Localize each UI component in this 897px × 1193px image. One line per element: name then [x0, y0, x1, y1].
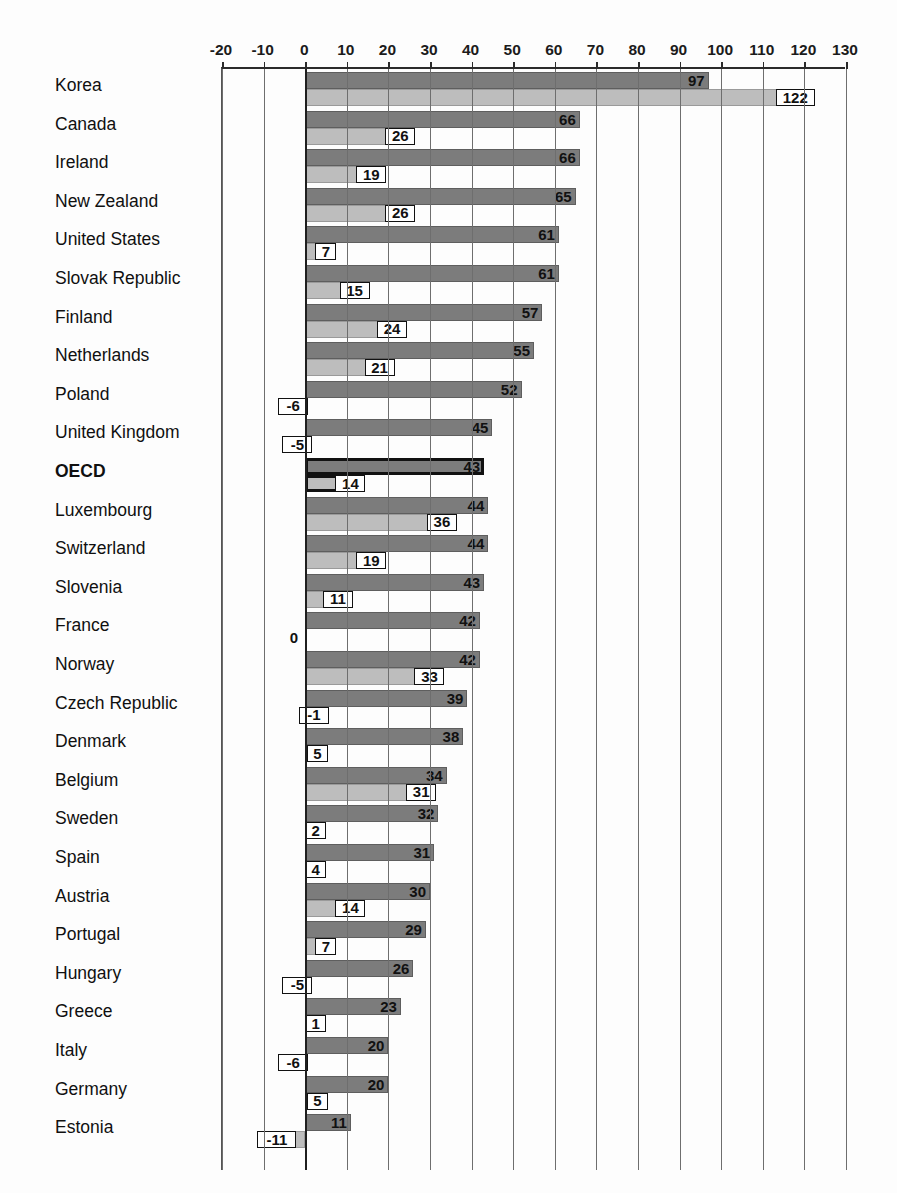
bar-value-label: 30 [409, 884, 426, 899]
x-tick-label: 30 [420, 41, 437, 59]
axis-tickmark [638, 62, 640, 69]
bar-row[interactable]: 322 [222, 805, 845, 839]
bar-row[interactable]: 6115 [222, 265, 845, 299]
bar-series-1[interactable] [305, 188, 575, 205]
gridline [222, 69, 223, 1170]
bar-row[interactable]: 20-6 [222, 1037, 845, 1071]
bar-series-1[interactable] [305, 265, 559, 282]
bar-row[interactable]: 3431 [222, 767, 845, 801]
bar-series-1[interactable] [305, 342, 534, 359]
bar-row[interactable]: 205 [222, 1076, 845, 1110]
bar-value-label: 7 [315, 938, 336, 955]
bar-series-1[interactable] [305, 72, 709, 89]
axis-tickmark [846, 62, 848, 69]
category-label: Denmark [55, 732, 126, 750]
axis-tickmark [430, 62, 432, 69]
bar-series-1[interactable] [305, 226, 559, 243]
x-tick-label: 120 [790, 41, 816, 59]
bar-row[interactable]: 97122 [222, 72, 845, 106]
bar-row[interactable]: 420 [222, 612, 845, 646]
bar-series-1[interactable] [305, 535, 488, 552]
bar-value-label: 21 [365, 359, 395, 376]
bar-row[interactable]: 231 [222, 998, 845, 1032]
bar-row[interactable]: 52-6 [222, 381, 845, 415]
category-label: Norway [55, 655, 114, 673]
chart-title-remnant [130, 0, 650, 6]
axis-tickmark [264, 62, 266, 69]
bar-value-label: -1 [299, 707, 329, 724]
bar-row[interactable]: 3014 [222, 883, 845, 917]
bar-value-label: 42 [459, 652, 476, 667]
bar-series-2[interactable] [305, 89, 813, 106]
x-tick-label: 70 [587, 41, 604, 59]
bar-row[interactable]: 45-5 [222, 419, 845, 453]
bar-value-label: -5 [282, 977, 312, 994]
bar-row[interactable]: 6526 [222, 188, 845, 222]
bar-row[interactable]: 4311 [222, 574, 845, 608]
bar-row[interactable]: 314 [222, 844, 845, 878]
bar-series-1[interactable] [305, 728, 463, 745]
category-label: Greece [55, 1002, 112, 1020]
bar-value-label: 5 [307, 745, 328, 762]
gridline [721, 69, 722, 1170]
bar-value-label: 0 [290, 629, 298, 646]
bar-value-label: 29 [405, 922, 422, 937]
bar-value-label: 66 [559, 150, 576, 165]
category-label: United States [55, 230, 160, 248]
axis-tickmark [596, 62, 598, 69]
axis-tickmark [305, 62, 307, 69]
bar-value-label: 34 [426, 768, 443, 783]
bar-value-label: 39 [447, 691, 464, 706]
bar-row[interactable]: 4419 [222, 535, 845, 569]
axis-tickmark [222, 62, 224, 69]
gridline [596, 69, 597, 1170]
bar-row[interactable]: 4314 [222, 458, 845, 492]
x-tick-label: 50 [504, 41, 521, 59]
bar-row[interactable]: 617 [222, 226, 845, 260]
bar-row[interactable]: 26-5 [222, 960, 845, 994]
bar-row[interactable]: 385 [222, 728, 845, 762]
bar-row[interactable]: 6619 [222, 149, 845, 183]
category-label: Germany [55, 1080, 127, 1098]
bar-value-label: 5 [307, 1093, 328, 1110]
category-label: Sweden [55, 809, 118, 827]
bar-row[interactable]: 297 [222, 921, 845, 955]
bar-series-1[interactable] [305, 574, 484, 591]
bar-series-1[interactable] [305, 458, 484, 475]
x-tick-label: 100 [707, 41, 733, 59]
bar-row[interactable]: 11-11 [222, 1114, 845, 1148]
x-tick-label: 130 [832, 41, 858, 59]
axis-tickmark [763, 62, 765, 69]
bar-value-label: 26 [393, 961, 410, 976]
category-label: OECD [55, 462, 106, 480]
category-label: Estonia [55, 1118, 113, 1136]
bar-row[interactable]: 5521 [222, 342, 845, 376]
bar-value-label: 15 [340, 282, 370, 299]
bar-value-label: 45 [472, 420, 489, 435]
x-tick-label: 40 [462, 41, 479, 59]
x-tick-label: -10 [251, 41, 273, 59]
bar-series-1[interactable] [305, 304, 542, 321]
category-label: Portugal [55, 925, 120, 943]
category-label: Czech Republic [55, 694, 178, 712]
x-tick-label: 60 [545, 41, 562, 59]
bar-series-1[interactable] [305, 612, 480, 629]
gridline [305, 69, 307, 1170]
bar-series-1[interactable] [305, 497, 488, 514]
axis-tickmark [472, 62, 474, 69]
bar-row[interactable]: 6626 [222, 111, 845, 145]
bar-series-1[interactable] [305, 690, 467, 707]
bar-row[interactable]: 4436 [222, 497, 845, 531]
category-label: Ireland [55, 153, 109, 171]
bar-row[interactable]: 5724 [222, 304, 845, 338]
axis-tickmark [680, 62, 682, 69]
bar-series-1[interactable] [305, 651, 480, 668]
bar-row[interactable]: 39-1 [222, 690, 845, 724]
gridline [804, 69, 805, 1170]
bar-series-1[interactable] [305, 419, 492, 436]
x-tick-label: 0 [300, 41, 309, 59]
bar-value-label: 65 [555, 189, 572, 204]
bar-series-1[interactable] [305, 381, 521, 398]
bar-row[interactable]: 4233 [222, 651, 845, 685]
gridline [264, 69, 265, 1170]
